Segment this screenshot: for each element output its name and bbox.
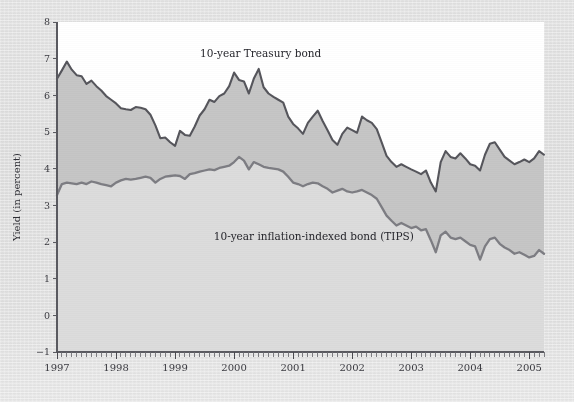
plot-layer [57, 22, 544, 352]
figure-container: 876543210−119971998199920002001200220032… [0, 0, 574, 402]
x-tick-label: 2003 [398, 362, 423, 373]
y-tick-label: 0 [44, 310, 50, 321]
y-tick-label: 4 [44, 163, 50, 174]
x-tick-label: 2005 [517, 362, 542, 373]
y-tick-label: 6 [44, 90, 50, 101]
x-tick-label: 2002 [339, 362, 364, 373]
x-tick-label: 2000 [221, 362, 246, 373]
y-axis-title: Yield (in percent) [11, 153, 22, 242]
y-tick-label: 8 [44, 16, 50, 27]
x-tick-label: 1997 [44, 362, 69, 373]
y-tick-label: −1 [36, 346, 50, 357]
y-tick-label: 5 [44, 126, 50, 137]
y-tick-label: 7 [44, 53, 50, 64]
x-tick-label: 2001 [280, 362, 305, 373]
y-tick-label: 1 [44, 273, 50, 284]
y-tick-label: 3 [44, 200, 50, 211]
x-tick-label: 2004 [457, 362, 482, 373]
y-tick-label: 2 [44, 236, 50, 247]
series-label-treasury: 10-year Treasury bond [200, 47, 321, 59]
x-tick-label: 1999 [162, 362, 187, 373]
x-tick-label: 1998 [103, 362, 128, 373]
yield-comparison-chart: 876543210−119971998199920002001200220032… [0, 0, 574, 402]
series-label-tips: 10-year inflation-indexed bond (TIPS) [214, 230, 414, 242]
